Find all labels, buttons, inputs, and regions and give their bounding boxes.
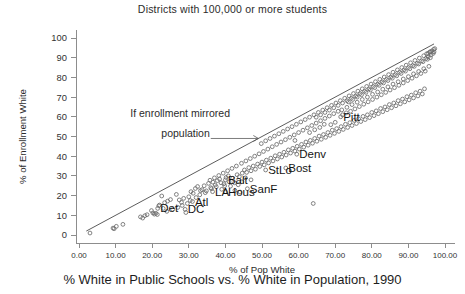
y-tick-label: 40 xyxy=(57,151,67,162)
data-point xyxy=(303,118,307,122)
x-tick-label: 50.00 xyxy=(252,251,273,260)
data-point xyxy=(230,167,234,171)
data-point xyxy=(403,100,407,104)
data-point xyxy=(316,111,320,115)
data-point xyxy=(382,75,386,79)
data-point xyxy=(208,178,212,182)
data-point xyxy=(416,94,420,98)
data-point xyxy=(336,109,340,113)
data-point xyxy=(327,108,331,112)
data-point xyxy=(289,151,293,155)
x-tick-label: 90.00 xyxy=(398,251,419,260)
data-point xyxy=(311,202,315,206)
data-point xyxy=(407,75,411,79)
data-point xyxy=(356,89,360,93)
data-point xyxy=(275,142,279,146)
data-point xyxy=(288,135,292,139)
data-point xyxy=(295,152,299,156)
y-tick-label: 0 xyxy=(62,229,67,240)
data-point xyxy=(321,108,325,112)
data-point xyxy=(187,195,191,199)
x-tick-label: 100.00 xyxy=(433,251,458,260)
data-point xyxy=(248,157,252,161)
data-point xyxy=(280,155,284,159)
data-point xyxy=(325,106,329,110)
data-point xyxy=(398,102,402,106)
x-tick-label: 10.00 xyxy=(106,251,127,260)
annotation-group: If enrollment mirroredpopulation xyxy=(130,107,258,142)
data-point xyxy=(350,124,354,128)
data-points-group xyxy=(88,47,437,235)
data-point xyxy=(299,120,303,124)
data-point xyxy=(369,82,373,86)
data-point xyxy=(217,174,221,178)
city-label: Bost xyxy=(288,162,312,174)
data-point xyxy=(284,138,288,142)
data-point xyxy=(221,171,225,175)
data-point xyxy=(365,85,369,89)
data-point xyxy=(328,133,332,137)
data-point xyxy=(315,139,319,143)
data-point xyxy=(322,122,326,126)
x-tick-label: 30.00 xyxy=(179,251,200,260)
data-point xyxy=(401,77,405,81)
data-point xyxy=(371,98,375,102)
reference-line-group xyxy=(86,44,434,231)
data-point xyxy=(363,118,367,122)
data-point xyxy=(329,123,333,127)
data-point xyxy=(355,100,359,104)
data-point xyxy=(182,196,186,200)
city-label: SanF xyxy=(250,183,277,195)
data-point xyxy=(174,193,178,197)
data-point xyxy=(407,98,411,102)
data-point xyxy=(362,102,366,106)
figure-caption: % White in Public Schools vs. % White in… xyxy=(0,272,465,287)
data-point xyxy=(249,169,253,173)
city-label: Balt xyxy=(228,174,249,186)
data-point xyxy=(404,63,408,67)
data-point xyxy=(381,110,385,114)
data-point xyxy=(314,121,318,125)
data-point xyxy=(244,159,248,163)
city-label: Denv xyxy=(299,148,326,160)
data-point xyxy=(324,135,328,139)
data-point xyxy=(319,137,323,141)
data-point xyxy=(213,176,217,180)
data-point xyxy=(400,66,404,70)
data-point xyxy=(114,224,118,228)
data-point xyxy=(368,116,372,120)
data-point xyxy=(202,184,206,188)
data-point xyxy=(264,168,268,172)
data-point xyxy=(314,115,318,119)
data-point xyxy=(372,114,376,118)
data-point xyxy=(341,101,345,105)
data-point xyxy=(224,178,228,182)
data-point xyxy=(327,114,331,118)
data-point xyxy=(279,140,283,144)
city-label: Pitt xyxy=(343,111,360,123)
data-point xyxy=(330,103,334,107)
data-point xyxy=(281,129,285,133)
data-point xyxy=(412,96,416,100)
data-point xyxy=(88,231,92,235)
scatter-plot-figure: Districts with 100,000 or more students … xyxy=(0,0,465,294)
data-point xyxy=(268,137,272,141)
data-point xyxy=(333,131,337,135)
data-point xyxy=(378,77,382,81)
data-point xyxy=(360,87,364,91)
data-point xyxy=(345,105,349,109)
data-point xyxy=(290,125,294,129)
data-point xyxy=(347,94,351,98)
data-point xyxy=(423,87,427,91)
data-point xyxy=(396,80,400,84)
data-point xyxy=(371,92,375,96)
data-point xyxy=(334,101,338,105)
data-point xyxy=(292,133,296,137)
data-point xyxy=(332,112,336,116)
data-point xyxy=(341,128,345,132)
y-tick-label: 60 xyxy=(57,111,67,122)
data-point xyxy=(376,112,380,116)
data-point xyxy=(391,82,395,86)
data-point xyxy=(277,132,281,136)
data-point xyxy=(318,126,322,130)
